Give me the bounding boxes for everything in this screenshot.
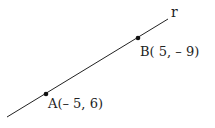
point-a-label: A(– 5, 6) (48, 97, 103, 110)
diagram-canvas (0, 0, 215, 128)
point-b-dot (136, 36, 141, 41)
point-b-label: B( 5, – 9) (140, 45, 199, 58)
line-label: r (171, 5, 178, 19)
